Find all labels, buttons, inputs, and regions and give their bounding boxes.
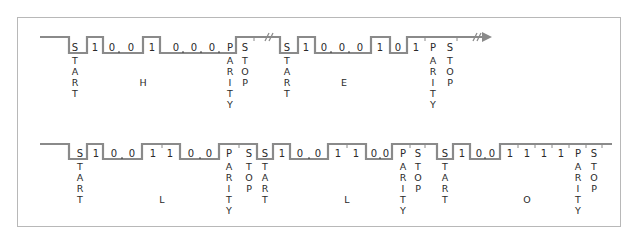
row2-char-l-1: L — [159, 194, 165, 205]
svg-text:I: I — [402, 183, 405, 194]
svg-text:1: 1 — [353, 148, 359, 159]
svg-text:I: I — [228, 183, 231, 194]
svg-text:A: A — [77, 172, 84, 183]
svg-text:A: A — [227, 55, 234, 66]
svg-text:1: 1 — [459, 148, 465, 159]
svg-text:O: O — [446, 66, 453, 77]
svg-text:0: 0 — [188, 148, 194, 159]
svg-text:0: 0 — [489, 148, 495, 159]
svg-text:T: T — [283, 88, 290, 99]
svg-text:S: S — [262, 148, 268, 159]
svg-text:A: A — [400, 161, 407, 172]
svg-text:0: 0 — [128, 42, 134, 53]
svg-text:P: P — [226, 148, 232, 159]
svg-text:0: 0 — [395, 42, 401, 53]
svg-text:S: S — [77, 148, 83, 159]
svg-text:T: T — [446, 55, 453, 66]
svg-text:T: T — [71, 88, 78, 99]
svg-text:0: 0 — [315, 148, 321, 159]
svg-text:A: A — [72, 66, 79, 77]
svg-text:1: 1 — [149, 42, 155, 53]
row2-char-o: O — [523, 194, 530, 205]
svg-text:O: O — [590, 172, 597, 183]
svg-text:1: 1 — [377, 42, 383, 53]
svg-text:1: 1 — [167, 148, 173, 159]
svg-text:P: P — [242, 77, 248, 88]
svg-text:Y: Y — [226, 99, 233, 110]
svg-text:T: T — [414, 161, 421, 172]
svg-text:Y: Y — [429, 99, 436, 110]
svg-text:T: T — [71, 55, 78, 66]
svg-text:0: 0 — [129, 148, 135, 159]
serial-transmission-diagram: S 1 0 0 1 0 0 0 P S S 1 0 0 0 1 0 1 P S … — [0, 0, 639, 241]
svg-text:S: S — [442, 148, 448, 159]
svg-text:0: 0 — [111, 148, 117, 159]
svg-text:1: 1 — [541, 148, 547, 159]
svg-text:P: P — [415, 183, 421, 194]
row1-parity-label-2: A R I T Y — [429, 55, 437, 110]
svg-text:T: T — [441, 194, 448, 205]
svg-text:T: T — [225, 194, 232, 205]
svg-text:T: T — [261, 161, 268, 172]
svg-text:1: 1 — [335, 148, 341, 159]
svg-text:1: 1 — [558, 148, 564, 159]
svg-text:1: 1 — [93, 148, 99, 159]
svg-text:O: O — [414, 172, 421, 183]
svg-text:1: 1 — [279, 148, 285, 159]
row1-char-h: H — [139, 77, 146, 88]
svg-text:P: P — [575, 148, 581, 159]
svg-text:T: T — [399, 194, 406, 205]
row2-parity-label-2: A R I T Y — [399, 161, 407, 216]
svg-text:I: I — [432, 77, 435, 88]
svg-text:Y: Y — [225, 205, 232, 216]
row2-parity-label-1: A R I T Y — [225, 161, 233, 216]
svg-text:R: R — [227, 66, 234, 77]
svg-text:0: 0 — [209, 42, 215, 53]
svg-text:A: A — [442, 172, 449, 183]
row1-char-e: E — [341, 77, 347, 88]
svg-text:T: T — [441, 161, 448, 172]
row2-bits: S 1 0 0 1 1 0 0 P S S 1 0 0 1 1 0 0 P S … — [77, 148, 597, 159]
svg-text:T: T — [76, 161, 83, 172]
svg-text:0: 0 — [297, 148, 303, 159]
svg-text:P: P — [246, 183, 252, 194]
svg-text:0: 0 — [109, 42, 115, 53]
row2-char-l-2: L — [344, 194, 350, 205]
svg-text:S: S — [72, 42, 78, 53]
svg-text:R: R — [72, 77, 79, 88]
row2-stop-label-1: T O P — [245, 161, 253, 194]
svg-text:1: 1 — [507, 148, 513, 159]
svg-text:R: R — [77, 183, 84, 194]
row2-parity-label-3: A R I T Y — [574, 161, 582, 216]
svg-text:R: R — [262, 183, 269, 194]
svg-text:S: S — [447, 42, 453, 53]
svg-text:R: R — [442, 183, 449, 194]
svg-text:Y: Y — [574, 205, 581, 216]
svg-text:1: 1 — [150, 148, 156, 159]
svg-text:S: S — [415, 148, 421, 159]
row1-parity-label-1: A R I T Y — [226, 55, 234, 110]
svg-text:P: P — [591, 183, 597, 194]
svg-text:R: R — [575, 172, 582, 183]
svg-text:S: S — [284, 42, 290, 53]
svg-text:A: A — [575, 161, 582, 172]
svg-text:S: S — [242, 42, 248, 53]
svg-text:I: I — [229, 77, 232, 88]
svg-text:T: T — [283, 55, 290, 66]
svg-text:A: A — [262, 172, 269, 183]
svg-text:A: A — [226, 161, 233, 172]
svg-text:T: T — [226, 88, 233, 99]
svg-text:R: R — [430, 66, 437, 77]
svg-text:Y: Y — [399, 205, 406, 216]
svg-text:P: P — [447, 77, 453, 88]
svg-text:0: 0 — [357, 42, 363, 53]
svg-text:S: S — [591, 148, 597, 159]
svg-text:A: A — [284, 66, 291, 77]
row2-start-label-2: T A R T — [261, 161, 269, 205]
row2-stop-label-3: T O P — [590, 161, 598, 194]
row1-start-label-2: T A R T — [283, 55, 291, 99]
svg-text:T: T — [241, 55, 248, 66]
row2-stop-label-2: T O P — [414, 161, 422, 194]
svg-text:P: P — [430, 42, 436, 53]
svg-text:T: T — [590, 161, 597, 172]
